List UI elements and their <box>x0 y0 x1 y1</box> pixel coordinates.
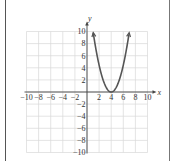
y-axis-label: y <box>87 14 92 23</box>
x-tick-label: −6 <box>46 93 55 102</box>
y-tick-label: 10 <box>78 27 86 36</box>
x-tick-label: 4 <box>109 93 113 102</box>
y-tick-label: −6 <box>77 124 86 133</box>
y-tick-label: −8 <box>77 136 86 145</box>
x-tick-label: −10 <box>20 93 33 102</box>
x-tick-label: −4 <box>59 93 68 102</box>
y-tick-label: −2 <box>77 100 86 109</box>
x-axis-label: x <box>157 88 162 97</box>
y-tick-label: 2 <box>82 76 86 85</box>
coordinate-plane: −10−8−6−4−2246810108642−2−4−6−8−10 x y <box>0 0 175 161</box>
x-tick-label: 8 <box>133 93 137 102</box>
x-tick-label: −8 <box>34 93 43 102</box>
axes <box>25 22 157 154</box>
x-tick-label: 10 <box>144 93 152 102</box>
y-tick-label: 4 <box>82 64 86 73</box>
y-tick-label: −4 <box>77 112 86 121</box>
y-tick-label: 8 <box>82 39 86 48</box>
x-axis-arrow-icon <box>153 90 157 94</box>
x-tick-label: 2 <box>97 93 101 102</box>
x-tick-label: 6 <box>121 93 125 102</box>
y-tick-label: 6 <box>82 52 86 61</box>
y-tick-label: −10 <box>73 148 86 157</box>
